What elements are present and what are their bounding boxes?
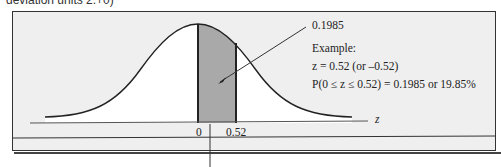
tick-label-052: 0.52 [226, 126, 246, 138]
panel-divider [13, 136, 496, 138]
example-line-1: z = 0.52 (or –0.52) [312, 60, 398, 72]
example-heading: Example: [312, 42, 356, 54]
tick-label-0: 0 [196, 126, 202, 138]
area-value-label: 0.1985 [312, 19, 344, 31]
axis-variable-label: z [375, 113, 379, 125]
example-line-2: P(0 ≤ z ≤ 0.52) = 0.1985 or 19.85% [312, 78, 476, 90]
